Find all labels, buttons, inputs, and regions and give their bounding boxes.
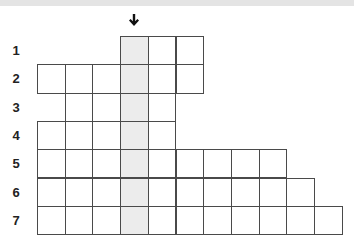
grid-cell[interactable] bbox=[92, 93, 121, 122]
grid-cell[interactable] bbox=[148, 64, 177, 93]
grid-cell[interactable] bbox=[92, 121, 121, 150]
grid-cell[interactable] bbox=[92, 149, 121, 178]
top-band bbox=[0, 0, 354, 6]
grid-cell[interactable] bbox=[259, 206, 288, 235]
keyword-cell[interactable] bbox=[120, 64, 149, 93]
row-label: 4 bbox=[9, 128, 23, 143]
grid-cell[interactable] bbox=[203, 178, 232, 207]
row-label: 1 bbox=[9, 43, 23, 58]
grid-cell[interactable] bbox=[92, 64, 121, 93]
grid-cell[interactable] bbox=[37, 149, 66, 178]
grid-cell[interactable] bbox=[203, 206, 232, 235]
grid-cell[interactable] bbox=[92, 206, 121, 235]
keyword-cell[interactable] bbox=[120, 149, 149, 178]
grid-cell[interactable] bbox=[37, 121, 66, 150]
row-label: 5 bbox=[9, 156, 23, 171]
grid-cell[interactable] bbox=[37, 64, 66, 93]
grid-cell[interactable] bbox=[65, 93, 94, 122]
grid-cell[interactable] bbox=[176, 206, 205, 235]
row-label: 3 bbox=[9, 100, 23, 115]
grid-cell[interactable] bbox=[231, 178, 260, 207]
grid-cell[interactable] bbox=[176, 36, 205, 65]
grid-cell[interactable] bbox=[176, 149, 205, 178]
down-arrow-icon bbox=[120, 12, 148, 28]
grid-cell[interactable] bbox=[65, 149, 94, 178]
grid-cell[interactable] bbox=[259, 178, 288, 207]
row-label: 7 bbox=[9, 213, 23, 228]
keyword-cell[interactable] bbox=[120, 206, 149, 235]
grid-cell[interactable] bbox=[148, 121, 177, 150]
grid-cell[interactable] bbox=[148, 36, 177, 65]
row-label: 2 bbox=[9, 71, 23, 86]
row-label: 6 bbox=[9, 185, 23, 200]
keyword-cell[interactable] bbox=[120, 178, 149, 207]
grid-cell[interactable] bbox=[148, 178, 177, 207]
grid-cell[interactable] bbox=[65, 64, 94, 93]
grid-cell[interactable] bbox=[231, 149, 260, 178]
grid-cell[interactable] bbox=[148, 149, 177, 178]
keyword-cell[interactable] bbox=[120, 36, 149, 65]
grid-cell[interactable] bbox=[231, 206, 260, 235]
grid-cell[interactable] bbox=[148, 206, 177, 235]
grid-cell[interactable] bbox=[286, 178, 315, 207]
keyword-cell[interactable] bbox=[120, 93, 149, 122]
grid-cell[interactable] bbox=[65, 121, 94, 150]
grid-cell[interactable] bbox=[148, 93, 177, 122]
grid-cell[interactable] bbox=[65, 206, 94, 235]
grid-cell[interactable] bbox=[203, 149, 232, 178]
grid-cell[interactable] bbox=[37, 206, 66, 235]
grid-cell[interactable] bbox=[314, 206, 343, 235]
grid-cell[interactable] bbox=[286, 206, 315, 235]
keyword-cell[interactable] bbox=[120, 121, 149, 150]
grid-cell[interactable] bbox=[92, 178, 121, 207]
grid-cell[interactable] bbox=[65, 178, 94, 207]
grid-cell[interactable] bbox=[176, 178, 205, 207]
grid-cell[interactable] bbox=[37, 178, 66, 207]
grid-cell[interactable] bbox=[259, 149, 288, 178]
grid-cell[interactable] bbox=[176, 64, 205, 93]
